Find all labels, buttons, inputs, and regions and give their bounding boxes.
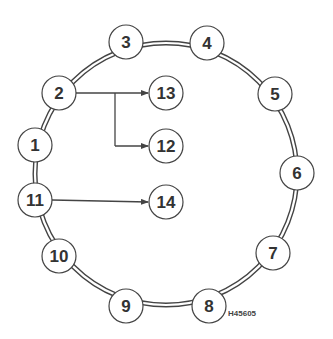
node-9: 9: [109, 289, 143, 323]
node-label: 4: [202, 34, 212, 53]
node-11: 11: [18, 183, 52, 217]
node-label: 14: [157, 193, 176, 212]
node-label: 12: [157, 137, 176, 156]
node-label: 11: [26, 191, 44, 210]
node-3: 3: [109, 25, 143, 59]
node-12: 12: [149, 129, 183, 163]
node-6: 6: [280, 156, 314, 190]
node-2: 2: [42, 76, 76, 110]
arrow-11-to-14: [52, 200, 148, 202]
node-13: 13: [149, 76, 183, 110]
node-label: 13: [157, 84, 176, 103]
node-label: 1: [30, 136, 39, 155]
node-label: 10: [50, 247, 69, 266]
node-4: 4: [190, 26, 224, 60]
node-label: 3: [121, 33, 130, 52]
node-group: 1234567891011131214: [18, 25, 314, 323]
arrow-connectors: [52, 93, 148, 202]
node-10: 10: [42, 239, 76, 273]
node-label: 8: [204, 297, 213, 316]
node-8: 8: [192, 289, 226, 323]
node-label: 2: [54, 84, 63, 103]
figure-code-label: H45605: [228, 309, 257, 318]
node-5: 5: [258, 77, 292, 111]
node-14: 14: [149, 185, 183, 219]
ring-diagram: 1234567891011131214 H45605: [0, 0, 333, 339]
node-label: 9: [121, 297, 130, 316]
node-1: 1: [18, 128, 52, 162]
node-label: 5: [270, 85, 279, 104]
node-label: 7: [268, 244, 277, 263]
node-7: 7: [256, 236, 290, 270]
node-label: 6: [292, 164, 301, 183]
